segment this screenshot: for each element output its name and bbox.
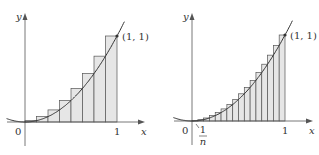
rectangle: [273, 45, 279, 121]
x-axis-arrow-icon: [138, 120, 145, 125]
riemann-sum-figure: yx01(1, 1)yx01(1, 1)1n: [0, 0, 319, 155]
fraction-numerator: 1: [200, 124, 206, 135]
plot-2: yx01(1, 1)1n: [173, 11, 317, 147]
point-label: (1, 1): [290, 30, 317, 41]
x-label: x: [141, 126, 147, 137]
rectangle: [279, 35, 285, 121]
origin-label: 0: [182, 125, 188, 136]
y-label: y: [182, 11, 189, 22]
plot-1: yx01(1, 1): [7, 11, 149, 146]
origin-label: 0: [15, 126, 21, 137]
rectangle: [268, 55, 274, 121]
y-axis-arrow-icon: [190, 13, 195, 20]
point-marker: [115, 34, 118, 37]
rectangle: [60, 101, 72, 123]
one-label: 1: [282, 125, 288, 136]
one-label: 1: [114, 126, 120, 137]
riemann-rectangles: [25, 36, 117, 122]
rectangle: [239, 94, 245, 121]
rectangle: [106, 36, 118, 122]
x-label: x: [309, 125, 315, 136]
point-label: (1, 1): [122, 31, 149, 42]
point-marker: [283, 33, 286, 36]
riemann-rectangles: [192, 35, 285, 121]
rectangle: [71, 88, 83, 122]
y-label: y: [15, 11, 22, 22]
y-axis-arrow-icon: [23, 13, 28, 20]
fraction-denominator: n: [200, 136, 206, 147]
pointer-arrow-icon: [196, 124, 199, 128]
rectangle: [262, 64, 268, 121]
x-axis-arrow-icon: [306, 119, 313, 124]
